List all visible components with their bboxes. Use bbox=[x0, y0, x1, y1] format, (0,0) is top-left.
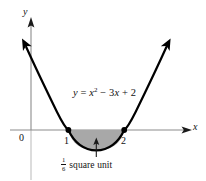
root-marker-x1 bbox=[66, 127, 72, 133]
x-tick-label-2: 2 bbox=[121, 136, 126, 146]
area-fraction-denominator: 6 bbox=[61, 166, 66, 173]
shaded-area-caption: 1 6 square unit bbox=[61, 157, 112, 173]
origin-label: 0 bbox=[19, 133, 24, 143]
x-tick-label-1: 1 bbox=[64, 136, 69, 146]
x-axis-label: x bbox=[193, 122, 197, 132]
y-axis-label: y bbox=[23, 7, 27, 17]
equation-term2: − 3 bbox=[98, 87, 115, 98]
area-caption-text: square unit bbox=[69, 160, 112, 170]
area-fraction: 1 6 bbox=[61, 157, 66, 173]
equation-equals: = bbox=[78, 87, 89, 98]
curve-equation-label: y = x2 − 3x + 2 bbox=[73, 88, 136, 99]
equation-term3: + 2 bbox=[119, 87, 136, 98]
area-fraction-numerator: 1 bbox=[61, 157, 66, 164]
root-marker-x2 bbox=[121, 127, 127, 133]
parabola-area-figure: y x 0 1 2 y = x2 − 3x + 2 1 6 square uni… bbox=[0, 0, 206, 181]
